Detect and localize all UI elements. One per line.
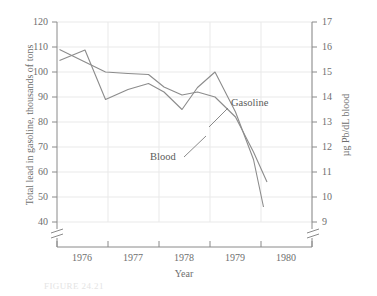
x-tick-label-1977: 1977 (123, 252, 143, 263)
right-tick-label-10: 10 (322, 191, 332, 202)
left-tick-label-70: 70 (38, 141, 48, 152)
x-axis-title: Year (175, 268, 194, 279)
x-axis-tick-labels: 1976 1977 1978 1979 1980 (72, 252, 296, 263)
right-tick-label-14: 14 (322, 91, 332, 102)
y-axis-title: Total lead in gasoline, thousands of ton… (24, 45, 35, 206)
left-tick-label-80: 80 (38, 116, 48, 127)
right-tick-label-11: 11 (322, 166, 332, 177)
left-tick-label-90: 90 (38, 91, 48, 102)
right-axis (307, 22, 319, 247)
right-tick-label-12: 12 (322, 141, 332, 152)
x-tick-label-1978: 1978 (174, 252, 194, 263)
x-tick-label-1979: 1979 (225, 252, 245, 263)
left-axis (51, 22, 63, 247)
figure-caption: FIGURE 24.21 (44, 281, 104, 291)
lead-gasoline-blood-line-chart: 120 110 100 90 80 70 60 50 40 17 16 15 1… (0, 0, 377, 296)
right-tick-label-17: 17 (322, 16, 332, 27)
left-axis-tick-labels: 120 110 100 90 80 70 60 50 40 (33, 16, 48, 227)
right-axis-break-icon (307, 229, 319, 238)
left-tick-label-40: 40 (38, 216, 48, 227)
series-label-blood: Blood (150, 151, 176, 162)
left-tick-label-100: 100 (33, 66, 48, 77)
left-tick-label-120: 120 (33, 16, 48, 27)
annotation-blood: Blood (150, 136, 206, 162)
left-tick-label-60: 60 (38, 166, 48, 177)
y2-axis-title: µg Pb/dL blood (340, 94, 351, 157)
right-tick-label-9: 9 (322, 216, 327, 227)
right-tick-label-16: 16 (322, 41, 332, 52)
series-line-gasoline (60, 50, 268, 183)
x-tick-label-1976: 1976 (72, 252, 92, 263)
series-line-blood (60, 50, 264, 207)
right-tick-label-15: 15 (322, 66, 332, 77)
left-tick-label-110: 110 (33, 41, 48, 52)
figure-container: 120 110 100 90 80 70 60 50 40 17 16 15 1… (0, 0, 377, 296)
series-label-gasoline: Gasoline (231, 97, 269, 108)
right-axis-tick-labels: 17 16 15 14 13 12 11 10 9 (322, 16, 332, 227)
right-tick-label-13: 13 (322, 116, 332, 127)
left-axis-break-icon (51, 229, 63, 238)
x-axis (57, 241, 312, 247)
left-tick-label-50: 50 (38, 191, 48, 202)
grid-lines (57, 22, 312, 222)
x-tick-label-1980: 1980 (276, 252, 296, 263)
